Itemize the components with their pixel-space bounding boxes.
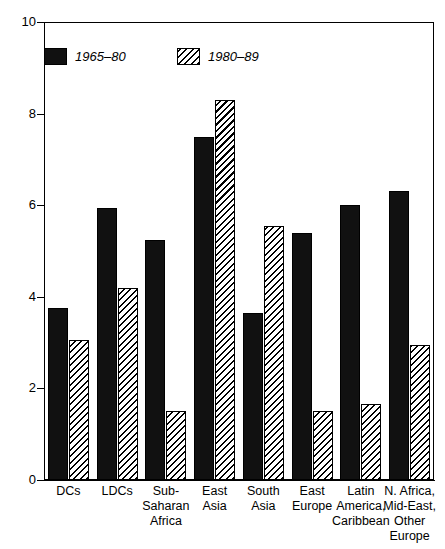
y-axis-tick: [37, 480, 44, 481]
y-axis-tick: [37, 22, 44, 23]
x-axis-label-line: N. Africa,: [378, 484, 441, 499]
x-axis-labels: DCsLDCsSub-SaharanAfricaEastAsiaSouthAsi…: [44, 484, 434, 549]
bar-series2: [410, 345, 430, 480]
bar-series1: [145, 240, 165, 480]
bar-chart-figure: 0246810 1965–801980–89 DCsLDCsSub-Sahara…: [0, 0, 445, 549]
x-axis-label-line: Europe: [378, 529, 441, 544]
bar-series2: [361, 404, 381, 480]
x-axis-label-line: Africa: [135, 514, 198, 529]
x-axis-category-label: N. Africa,Mid-East,OtherEurope: [378, 484, 441, 544]
bar-series1: [194, 137, 214, 481]
bar-series1: [292, 233, 312, 480]
bar-group-container: [44, 22, 434, 480]
y-axis-tick: [37, 205, 44, 206]
bar-series2: [166, 411, 186, 480]
bar-series2: [313, 411, 333, 480]
bar-series2: [264, 226, 284, 480]
y-axis-tick-label: 2: [4, 381, 36, 394]
bar-series2: [118, 288, 138, 480]
y-axis-tick-label: 4: [4, 290, 36, 303]
y-axis-tick: [37, 297, 44, 298]
y-axis-tick: [37, 388, 44, 389]
x-axis-label-line: Other: [378, 514, 441, 529]
bar-series1: [243, 313, 263, 480]
y-axis-labels: 0246810: [0, 0, 36, 549]
y-axis-tick-label: 10: [4, 15, 36, 28]
bar-series2: [215, 100, 235, 480]
x-axis-label-line: Mid-East,: [378, 499, 441, 514]
y-axis-tick-label: 8: [4, 107, 36, 120]
bar-series1: [389, 191, 409, 480]
y-axis-tick: [37, 114, 44, 115]
bar-series1: [48, 308, 68, 480]
bar-series2: [69, 340, 89, 480]
bar-series1: [340, 205, 360, 480]
bar-series1: [97, 208, 117, 481]
y-axis-tick-label: 0: [4, 473, 36, 486]
y-axis-tick-label: 6: [4, 198, 36, 211]
x-axis-line: [44, 480, 435, 481]
